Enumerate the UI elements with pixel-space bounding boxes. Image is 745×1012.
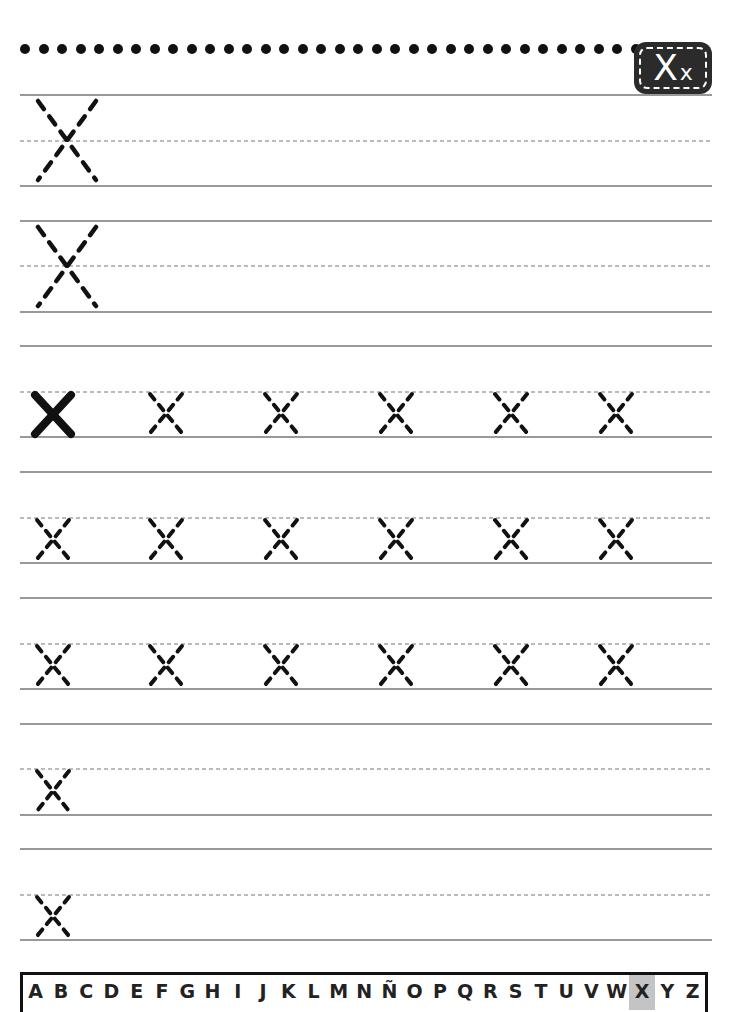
tracing-letter-x-small (495, 394, 527, 433)
alphabet-letter: Y (655, 975, 680, 1010)
tracing-letter-x-small (495, 646, 527, 685)
alphabet-letter: M (326, 975, 351, 1010)
tracing-letter-x-small (380, 394, 412, 433)
alphabet-letter: O (402, 975, 427, 1010)
alphabet-letter: D (99, 975, 124, 1010)
tracing-letter-x-large (38, 227, 96, 306)
alphabet-letter: J (250, 975, 275, 1010)
alphabet-letter: E (124, 975, 149, 1010)
tracing-letter-x-small (37, 646, 69, 685)
alphabet-letter-active: X (629, 975, 654, 1010)
alphabet-letter: W (604, 975, 629, 1010)
tracing-letter-x-small (265, 646, 297, 685)
alphabet-letter: F (149, 975, 174, 1010)
alphabet-letter: C (74, 975, 99, 1010)
alphabet-strip: ABCDEFGHIJKLMNÑOPQRSTUVWXYZ (20, 972, 708, 1012)
alphabet-letter: K (276, 975, 301, 1010)
tracing-letter-x-small (37, 771, 69, 811)
tracing-letter-x-small (265, 394, 297, 433)
alphabet-letter: N (351, 975, 376, 1010)
tracing-letter-x-small (380, 520, 412, 559)
tracing-letter-x-small (600, 520, 632, 559)
alphabet-letter: Ñ (377, 975, 402, 1010)
tracing-letter-x-small (265, 520, 297, 559)
alphabet-letter: B (48, 975, 73, 1010)
alphabet-letter: L (301, 975, 326, 1010)
alphabet-letter: V (579, 975, 604, 1010)
alphabet-letter: I (225, 975, 250, 1010)
tracing-letter-x-small (37, 897, 69, 936)
alphabet-letter: U (554, 975, 579, 1010)
alphabet-letter: Q (453, 975, 478, 1010)
alphabet-letter: A (23, 975, 48, 1010)
alphabet-letter: T (528, 975, 553, 1010)
tracing-letter-x-small (37, 520, 69, 559)
alphabet-letter: G (175, 975, 200, 1010)
alphabet-letter: H (200, 975, 225, 1010)
tracing-letter-x-small (150, 520, 182, 559)
tracing-letter-x-large (38, 101, 96, 180)
tracing-letter-x-small (150, 646, 182, 685)
tracing-letter-x-small (600, 394, 632, 433)
tracing-letter-x-small (380, 646, 412, 685)
alphabet-letter: R (478, 975, 503, 1010)
model-letter-x-solid (35, 395, 71, 434)
alphabet-letter: P (427, 975, 452, 1010)
tracing-letter-x-small (495, 520, 527, 559)
alphabet-letter: Z (680, 975, 705, 1010)
tracing-letter-x-small (600, 646, 632, 685)
tracing-letter-x-small (150, 394, 182, 433)
alphabet-letter: S (503, 975, 528, 1010)
